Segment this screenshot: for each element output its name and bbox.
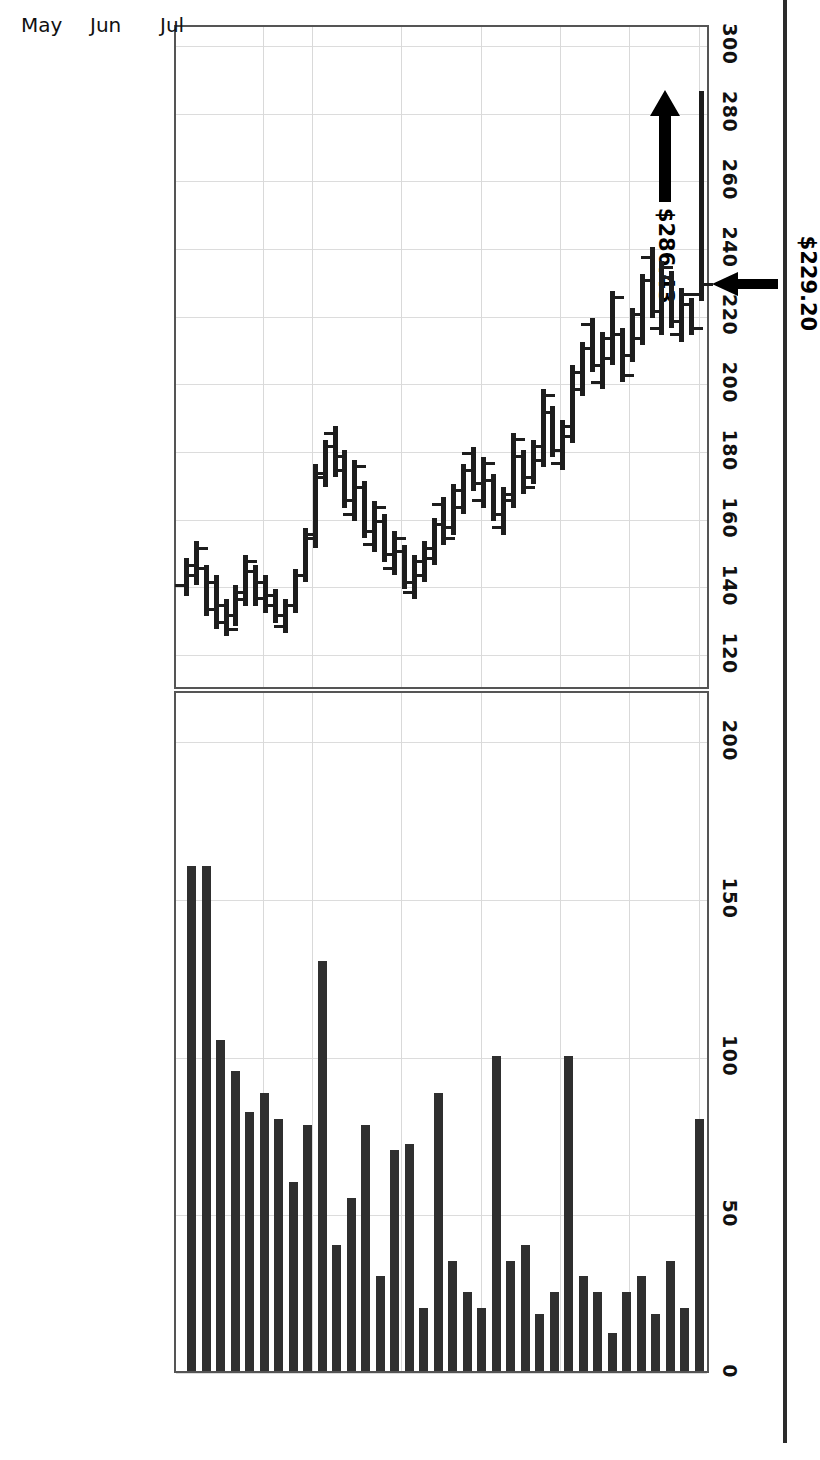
time-gridline-Apr [481,693,482,1371]
volume-bar [274,1119,283,1371]
price-bar-open-tick [601,357,612,360]
price-bar [531,440,536,484]
price-gridline [176,655,707,656]
volume-axis-tick-50: 50 [719,1200,741,1227]
time-gridline-Feb [312,693,313,1371]
volume-axis-tick-100: 100 [719,1035,741,1076]
close-arrow-icon [708,269,780,299]
price-bar [679,288,684,342]
price-bar-open-tick [462,452,473,455]
price-bar-open-tick [452,506,463,509]
price-bar-open-tick [532,459,543,462]
time-gridline-Mar [401,693,402,1371]
price-bar-open-tick [353,486,364,489]
price-bar-open-tick [333,455,344,458]
price-bar-close-tick [692,327,703,330]
price-bar [481,457,486,508]
price-bar [550,406,555,457]
price-bar [422,541,427,582]
price-bar-open-tick [492,526,503,529]
price-bar [451,484,456,535]
price-bar [333,426,338,477]
price-bar [362,481,367,539]
volume-bar [666,1261,675,1371]
price-bar-open-tick [274,625,285,628]
price-bar-close-tick [484,462,495,465]
price-bar-open-tick [383,567,394,570]
time-axis-tick-labels: 21FebMarAprMayJunJul [129,25,169,1369]
volume-gridline [176,1373,707,1374]
price-bar-open-tick [393,550,404,553]
volume-axis-tick-200: 200 [719,720,741,761]
volume-bar [651,1314,660,1371]
volume-bar [564,1056,573,1371]
volume-bar [405,1144,414,1371]
price-bar [352,460,357,521]
price-bar [650,247,655,318]
price-bar-open-tick [541,411,552,414]
price-bar-open-tick [195,567,206,570]
price-bar-close-tick [623,374,634,377]
price-axis-tick-200: 200 [719,362,741,403]
volume-axis-tick-150: 150 [719,877,741,918]
volume-bar [593,1292,602,1371]
price-bar [402,545,407,589]
price-bar [669,271,674,329]
price-bar [382,514,387,561]
volume-bar [579,1276,588,1371]
price-axis-tick-180: 180 [719,429,741,470]
volume-axis-tick-0: 0 [719,1364,741,1378]
price-bar-open-tick [304,537,315,540]
volume-bar [347,1198,356,1371]
price-bar-close-tick [395,537,406,540]
price-bar-close-tick [197,547,208,550]
price-bar-range [659,261,664,335]
price-bar [610,291,615,365]
price-bar-range [570,365,575,443]
price-bar-open-tick [561,435,572,438]
volume-bar [506,1261,515,1371]
price-gridline [176,384,707,385]
price-bar-close-tick [227,628,238,631]
price-bar [372,501,377,552]
price-bar [659,261,664,335]
price-bar-open-tick [571,388,582,391]
price-bar [521,450,526,494]
price-gridline [176,317,707,318]
volume-bar [477,1308,486,1371]
price-bar-open-tick [294,574,305,577]
price-bar [600,332,605,390]
price-bar [184,558,189,595]
price-bar [224,599,229,636]
volume-bar [680,1308,689,1371]
price-bar-open-tick [641,256,652,259]
price-bar-open-tick [224,614,235,617]
price-bar [273,589,278,623]
high-arrow-icon [642,86,688,206]
price-bar-range [541,389,546,467]
price-bar-range [699,91,704,301]
price-bar [253,565,258,606]
value-axis-tick-labels: 3002802602402202001801601401202001501005… [713,0,797,1460]
price-bar [204,565,209,616]
time-gridline-May [560,693,561,1371]
volume-bar [492,1056,501,1371]
price-bar [689,298,694,335]
volume-bar [390,1150,399,1371]
time-tick-May: May [21,13,62,37]
price-bar-open-tick [215,604,226,607]
time-gridline-Apr [481,27,482,687]
volume-bar [463,1292,472,1371]
volume-bar [695,1119,704,1371]
price-bar-open-tick [591,381,602,384]
time-tick-Jun: Jun [90,13,121,37]
price-bar [432,518,437,565]
time-gridline-Jun [629,693,630,1371]
price-bar-range [610,291,615,365]
price-bar-open-tick [373,520,384,523]
price-bar [323,440,328,487]
volume-bar [637,1276,646,1371]
volume-bar [419,1308,428,1371]
volume-bar [202,866,211,1371]
